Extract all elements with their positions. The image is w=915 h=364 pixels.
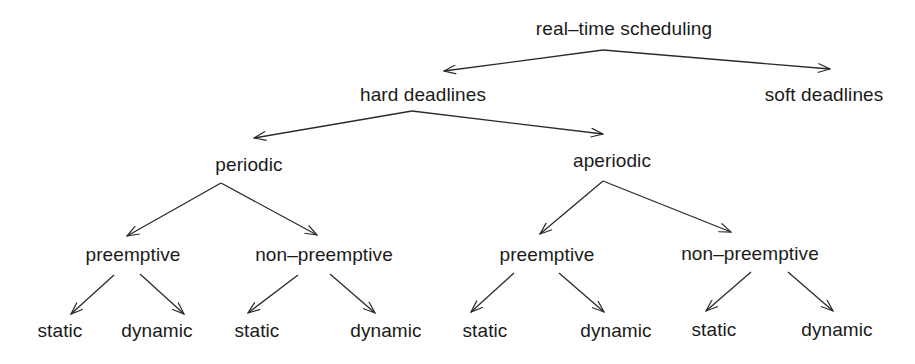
node-soft-deadlines: soft deadlines [765,84,884,106]
edge-hard-periodic [254,111,412,138]
edge-root-hard [444,50,603,71]
edge-a-pre-dynamic [559,273,604,312]
edge-hard-aperiodic [412,111,603,134]
node-periodic-nonpreemptive-dynamic: dynamic [350,320,421,342]
edge-periodic-preemptive [127,183,221,236]
node-hard-deadlines: hard deadlines [360,84,486,106]
node-periodic-non-preemptive: non–preemptive [255,244,393,266]
edge-p-pre-static [71,275,114,314]
node-aperiodic-nonpreemptive-static: static [692,319,737,341]
edge-periodic-nonpreemptive [221,183,317,235]
node-aperiodic: aperiodic [573,150,651,172]
node-periodic: periodic [215,154,282,176]
node-aperiodic-non-preemptive: non–preemptive [681,243,819,265]
tree-edges [0,0,915,364]
node-aperiodic-nonpreemptive-dynamic: dynamic [801,319,872,341]
edge-root-soft [603,50,830,69]
scheduling-tree-diagram: real–time scheduling hard deadlines soft… [0,0,915,364]
node-aperiodic-preemptive: preemptive [500,244,595,266]
node-periodic-preemptive-static: static [38,320,83,342]
node-periodic-preemptive: preemptive [86,244,181,266]
node-real-time-scheduling: real–time scheduling [536,18,712,40]
edge-aperiodic-preemptive [540,181,603,234]
edge-p-nonpre-static [248,275,298,313]
node-aperiodic-preemptive-dynamic: dynamic [580,320,651,342]
edge-a-nonpre-static [706,272,751,311]
edge-p-pre-dynamic [140,274,184,314]
edge-p-nonpre-dynamic [330,274,375,313]
node-periodic-nonpreemptive-static: static [235,320,280,342]
node-aperiodic-preemptive-static: static [463,320,508,342]
node-periodic-preemptive-dynamic: dynamic [121,320,192,342]
edge-aperiodic-nonpreemptive [603,181,731,232]
edge-a-nonpre-dynamic [788,272,833,311]
edge-a-pre-static [471,273,514,312]
